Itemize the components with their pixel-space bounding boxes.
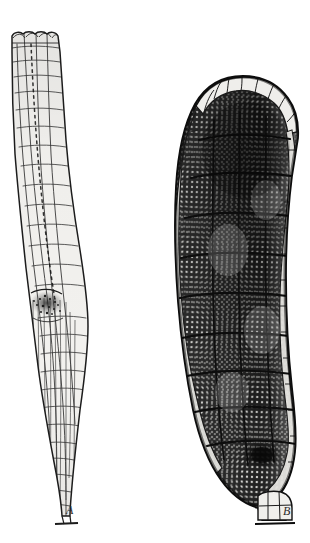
figure-b-dark-mass bbox=[242, 441, 282, 469]
figure-b-upper-dark-mass bbox=[202, 102, 290, 198]
figure-a-base-line bbox=[55, 523, 78, 524]
figure-b-label: B bbox=[283, 505, 291, 517]
figure-b-stalk-base-line bbox=[255, 523, 295, 524]
illustration-plate: A B bbox=[0, 0, 310, 543]
plate-canvas bbox=[0, 0, 310, 543]
figure-a-label: A bbox=[66, 504, 74, 516]
